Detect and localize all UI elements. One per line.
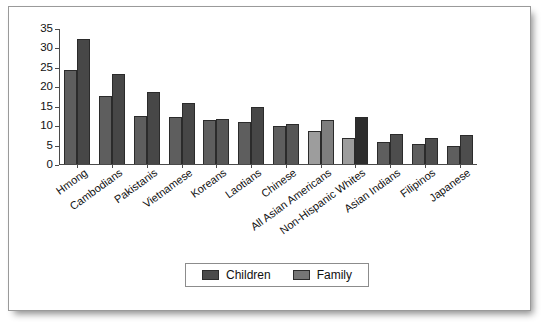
legend-swatch (202, 270, 219, 280)
y-axis-tick-label: 35 (29, 23, 53, 35)
y-axis-tick-label: 5 (29, 140, 53, 152)
y-axis-tick (55, 87, 59, 88)
legend-swatch (293, 270, 310, 280)
y-axis-tick (55, 68, 59, 69)
bar-group (269, 29, 304, 164)
bar-group (338, 29, 373, 164)
y-axis-tick-label: 15 (29, 101, 53, 113)
bar-family (147, 92, 160, 164)
bar-family (77, 39, 90, 164)
bar-children (342, 138, 355, 164)
bar-children (273, 126, 286, 164)
bar-group (373, 29, 408, 164)
y-axis-tick (55, 146, 59, 147)
bar-group (442, 29, 477, 164)
bar-children (134, 116, 147, 164)
y-axis-labels: 35302520151050 (27, 29, 53, 165)
bar-family (390, 134, 403, 164)
y-axis-tick-label: 25 (29, 62, 53, 74)
y-axis-tick-label: 20 (29, 81, 53, 93)
bar-group (303, 29, 338, 164)
bar-group (199, 29, 234, 164)
bar-children (99, 96, 112, 164)
bar-group (164, 29, 199, 164)
bar-family (251, 107, 264, 164)
bar-children (412, 144, 425, 164)
chart-card: 35302520151050 HmongCambodiansPakistanis… (8, 6, 531, 311)
x-axis-tick-label: Koreans (189, 167, 229, 200)
y-axis-tick (55, 107, 59, 108)
bar-group (408, 29, 443, 164)
y-axis-tick (55, 29, 59, 30)
bar-children (377, 142, 390, 164)
bar-family (321, 120, 334, 164)
plot-area (59, 29, 477, 165)
bar-groups (60, 29, 477, 164)
bar-children (203, 120, 216, 164)
bar-group (60, 29, 95, 164)
x-axis-line (59, 164, 477, 165)
bar-group (95, 29, 130, 164)
bar-family (112, 74, 125, 164)
bar-children (447, 146, 460, 164)
y-axis-tick (55, 165, 59, 166)
chart-legend: ChildrenFamily (185, 263, 369, 287)
legend-label: Family (317, 269, 352, 281)
bar-family (182, 103, 195, 164)
bar-family (355, 117, 368, 164)
legend-item: Children (202, 269, 271, 281)
y-axis-tick (55, 126, 59, 127)
bar-children (169, 117, 182, 164)
bar-family (460, 135, 473, 164)
bar-group (234, 29, 269, 164)
bar-group (130, 29, 165, 164)
x-axis-labels: HmongCambodiansPakistanisVietnameseKorea… (60, 167, 478, 237)
bar-family (286, 124, 299, 164)
y-axis-tick (55, 48, 59, 49)
legend-label: Children (226, 269, 271, 281)
y-axis-tick-label: 0 (29, 159, 53, 171)
bar-children (308, 131, 321, 164)
y-axis-tick-label: 10 (29, 120, 53, 132)
x-axis-tick-label: Laotians (223, 167, 263, 200)
bar-family (216, 119, 229, 164)
bar-children (238, 122, 251, 164)
bar-children (64, 70, 77, 165)
legend-item: Family (293, 269, 352, 281)
bar-family (425, 138, 438, 164)
y-axis-tick-label: 30 (29, 42, 53, 54)
